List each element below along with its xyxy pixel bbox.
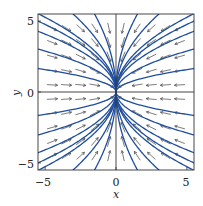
y-tick-0: 0 xyxy=(27,87,34,100)
direction-arrow xyxy=(134,24,140,33)
axes xyxy=(38,14,194,170)
direction-arrow xyxy=(134,151,140,160)
trajectory-curve xyxy=(0,7,116,92)
direction-arrow xyxy=(47,99,58,100)
phase-portrait-chart: −5 0 5 5 0 −5 x y xyxy=(0,0,203,206)
x-axis-label: x xyxy=(113,188,120,201)
trajectory-curve xyxy=(0,7,116,92)
y-tick-neg5: −5 xyxy=(18,158,34,171)
trajectory-curve xyxy=(4,7,116,92)
direction-arrow xyxy=(175,99,186,100)
direction-arrow xyxy=(148,152,156,159)
direction-arrow xyxy=(148,25,156,32)
trajectory-curve xyxy=(0,7,116,92)
direction-arrow xyxy=(47,85,58,86)
x-tick-5: 5 xyxy=(183,176,190,189)
direction-arrow xyxy=(77,152,85,159)
y-axis-label: y xyxy=(10,89,23,97)
direction-arrow xyxy=(92,151,98,160)
direction-arrow xyxy=(175,85,186,86)
direction-arrow xyxy=(77,25,85,32)
direction-arrow xyxy=(92,24,98,33)
x-tick-neg5: −5 xyxy=(35,176,51,189)
y-tick-5: 5 xyxy=(27,15,34,28)
